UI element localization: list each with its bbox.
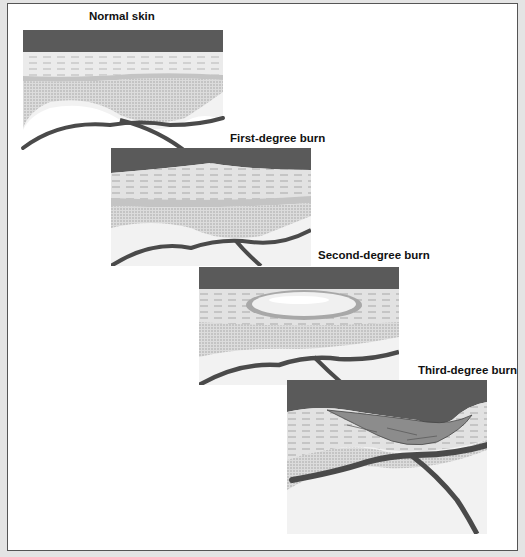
- label-third-degree-burn: Third-degree burn: [418, 364, 517, 376]
- panel-first-degree-burn: [111, 148, 311, 266]
- label-normal-skin: Normal skin: [89, 10, 155, 22]
- panel-second-degree-burn: [199, 267, 399, 385]
- label-first-degree-burn: First-degree burn: [230, 132, 325, 144]
- epidermis-layer: [199, 267, 399, 289]
- panel-normal-skin: [0, 30, 230, 155]
- label-second-degree-burn: Second-degree burn: [318, 249, 430, 261]
- epidermis-layer: [23, 30, 223, 52]
- panel-third-degree-burn: [287, 380, 487, 534]
- blister: [252, 292, 356, 316]
